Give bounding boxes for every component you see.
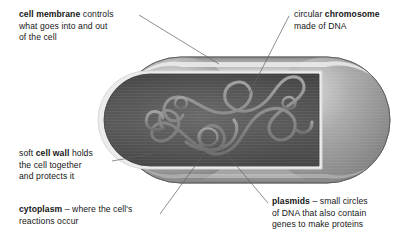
label-line: cell membrane controls — [19, 9, 114, 21]
label-chromosome: circular chromosome made of DNA — [294, 9, 380, 32]
term-chromosome: chromosome — [325, 9, 380, 19]
label-line: plasmids – small circles — [272, 196, 368, 208]
label-text: circular — [294, 9, 325, 19]
label-text: – small circles — [310, 196, 368, 206]
label-text: soft — [19, 148, 36, 158]
diagram-canvas: cell membrane controls what goes into an… — [0, 0, 409, 246]
label-line: soft cell wall holds — [19, 148, 93, 160]
label-text: the cell together — [19, 160, 93, 172]
term-cytoplasm: cytoplasm — [19, 204, 62, 214]
label-text: what goes into and out — [19, 21, 114, 33]
label-plasmids: plasmids – small circles of DNA that als… — [272, 196, 368, 231]
term-plasmids: plasmids — [272, 196, 310, 206]
label-line: circular chromosome — [294, 9, 380, 21]
label-text: holds — [69, 148, 92, 158]
term-cell-membrane: cell membrane — [19, 9, 80, 19]
label-text: genes to make proteins — [272, 219, 368, 231]
label-text: of the cell — [19, 32, 114, 44]
term-cell-wall: cell wall — [36, 148, 70, 158]
label-text: and protects it — [19, 171, 93, 183]
label-cell-wall: soft cell wall holds the cell together a… — [19, 148, 93, 183]
label-cytoplasm: cytoplasm – where the cell's reactions o… — [19, 204, 132, 227]
label-text: controls — [80, 9, 113, 19]
label-text: of DNA that also contain — [272, 208, 368, 220]
label-text: made of DNA — [294, 21, 380, 33]
label-text: reactions occur — [19, 216, 132, 228]
label-text: – where the cell's — [62, 204, 132, 214]
label-line: cytoplasm – where the cell's — [19, 204, 132, 216]
label-cell-membrane: cell membrane controls what goes into an… — [19, 9, 114, 44]
